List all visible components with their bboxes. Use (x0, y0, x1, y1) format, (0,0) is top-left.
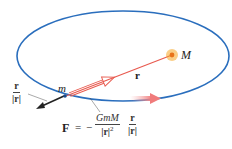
force-fraction: GmM |r|2 (95, 113, 120, 137)
unit-vector-num: r (13, 81, 19, 93)
force-den-exp: 2 (110, 125, 114, 133)
label-r: r (135, 70, 140, 81)
unit-vector-den: |r| (12, 93, 21, 104)
force-unit-num: r (129, 113, 135, 125)
planet-m (63, 94, 67, 98)
star-core (170, 53, 175, 58)
force-num: GmM (95, 113, 120, 125)
force-formula: F = − GmM |r|2 r |r| (62, 113, 142, 147)
velocity-arrow (130, 93, 161, 104)
force-arrow (36, 96, 64, 109)
force-unit-den: |r| (128, 125, 137, 136)
force-minus: − (86, 122, 92, 133)
orbit-ellipse (17, 11, 229, 101)
radius-vector-line (66, 55, 172, 96)
force-unit-fraction: r |r| (128, 113, 137, 136)
force-den: |r| (101, 126, 110, 137)
label-M: M (181, 49, 191, 61)
unit-vector-pointer (28, 94, 47, 101)
label-m: m (58, 83, 66, 94)
unit-vector-label: r |r| (12, 81, 21, 104)
force-equals: = (75, 122, 81, 133)
force-F: F (62, 122, 69, 134)
